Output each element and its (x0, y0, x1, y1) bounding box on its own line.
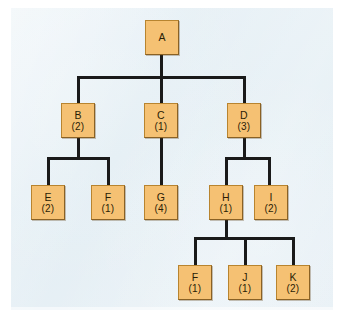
edge-d-stem (243, 138, 246, 158)
node-label: J (242, 271, 247, 283)
tree-node-j[interactable]: J (1) (228, 265, 262, 300)
node-label: F (192, 271, 199, 283)
node-label: B (74, 109, 81, 121)
edge-bus-to-e (47, 157, 50, 185)
node-label: I (269, 191, 272, 203)
tree-node-a[interactable]: A (145, 20, 179, 55)
edge-a-stem (160, 55, 163, 77)
tree-node-f-level3[interactable]: F (1) (178, 265, 212, 300)
tree-node-g[interactable]: G (4) (144, 185, 178, 220)
node-label: E (44, 191, 51, 203)
edge-bus-to-i (268, 157, 271, 185)
edge-bus-h-children (194, 237, 292, 240)
edge-bus-to-c (160, 76, 163, 103)
edge-bus-to-k (292, 237, 295, 265)
node-label: G (157, 191, 165, 203)
tree-node-e[interactable]: E (2) (31, 185, 65, 220)
tree-node-b[interactable]: B (2) (61, 103, 95, 138)
edge-h-stem (225, 220, 228, 238)
node-label: A (158, 31, 165, 44)
node-label: H (222, 191, 230, 203)
node-count: (3) (238, 121, 251, 133)
edge-bus-to-f2 (194, 237, 197, 265)
node-count: (1) (155, 121, 168, 133)
edge-bus-to-j (244, 237, 247, 265)
tree-node-h[interactable]: H (1) (209, 185, 243, 220)
edge-bus-b-children (47, 157, 110, 160)
edge-bus-to-b (77, 76, 80, 103)
tree-node-f-level2[interactable]: F (1) (91, 185, 125, 220)
edge-c-to-g (160, 138, 163, 185)
edge-bus-d-children (225, 157, 271, 160)
edge-b-stem (77, 138, 80, 158)
node-label: C (157, 109, 165, 121)
node-label: D (240, 109, 248, 121)
node-count: (2) (72, 121, 85, 133)
tree-diagram: A B (2) C (1) D (3) E (2) F (1) G (4) H … (0, 0, 342, 316)
edge-bus-to-f1 (107, 157, 110, 185)
node-label: K (289, 271, 296, 283)
tree-node-d[interactable]: D (3) (227, 103, 261, 138)
tree-node-k[interactable]: K (2) (276, 265, 310, 300)
node-count: (2) (42, 203, 55, 215)
panel-bottom-edge (11, 307, 333, 310)
node-count: (4) (155, 203, 168, 215)
tree-node-i[interactable]: I (2) (254, 185, 288, 220)
edge-bus-to-d (243, 76, 246, 103)
node-count: (1) (189, 283, 202, 295)
node-count: (1) (220, 203, 233, 215)
node-count: (1) (239, 283, 252, 295)
tree-node-c[interactable]: C (1) (144, 103, 178, 138)
node-count: (1) (102, 203, 115, 215)
node-count: (2) (287, 283, 300, 295)
node-label: F (105, 191, 112, 203)
edge-bus-to-h (225, 157, 228, 185)
node-count: (2) (265, 203, 278, 215)
